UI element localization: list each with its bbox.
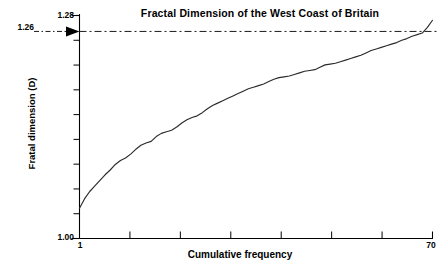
reference-line-group bbox=[34, 26, 437, 36]
y-axis-ticks bbox=[72, 16, 80, 239]
x-axis-title: Cumulative frequency bbox=[150, 249, 330, 260]
reference-arrow-icon bbox=[66, 26, 80, 36]
x-axis-ticks bbox=[80, 232, 433, 239]
x-axis-tick-label-max: 70 bbox=[421, 240, 441, 250]
x-axis-tick-label-min: 1 bbox=[73, 240, 87, 250]
chart-title: Fractal Dimension of the West Coast of B… bbox=[130, 7, 390, 19]
chart-figure: Fractal Dimension of the West Coast of B… bbox=[0, 0, 448, 272]
y-axis-title: Fratal dimension (D) bbox=[26, 59, 37, 189]
reference-line-label: 1.26 bbox=[8, 22, 34, 32]
y-axis-tick-label-max: 1.28 bbox=[42, 10, 74, 20]
y-axis-tick-label-min: 1.00 bbox=[42, 232, 74, 242]
data-series-line bbox=[80, 20, 433, 208]
